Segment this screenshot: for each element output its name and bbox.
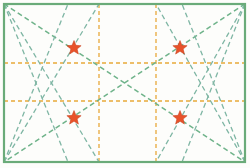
marker-star-top-right [173, 41, 187, 55]
geometric-figure-container [0, 0, 250, 168]
geometry-canvas [0, 0, 250, 168]
green-construction-lines-layer [4, 4, 245, 162]
marker-star-top-left [67, 41, 81, 55]
